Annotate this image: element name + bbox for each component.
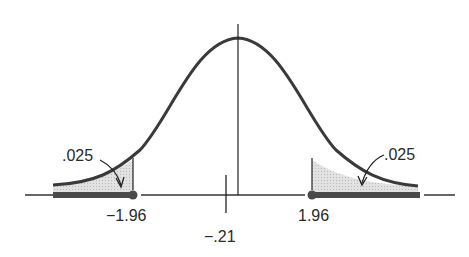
normal-curve-diagram: .025 .025 −1.96 1.96 −.21 [0, 0, 469, 257]
right-critical-label: 1.96 [298, 207, 329, 224]
left-tail-label: .025 [62, 147, 93, 164]
right-tail-shade [312, 160, 418, 195]
left-critical-label: −1.96 [106, 207, 147, 224]
observed-label: −.21 [204, 228, 236, 245]
left-critical-dot [129, 191, 138, 200]
right-critical-dot [308, 191, 317, 200]
normal-curve [53, 38, 418, 186]
right-tail-label: .025 [384, 146, 415, 163]
